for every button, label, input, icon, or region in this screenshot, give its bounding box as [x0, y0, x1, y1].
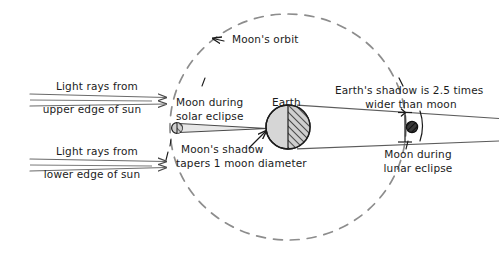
earth-label: Earth [272, 96, 301, 110]
light-ray-upper-1 [30, 94, 166, 98]
light-rays-upper-label-line2: upper edge of sun [27, 103, 157, 117]
eclipse-diagram-canvas: Moon's orbit Light rays from upper edge … [0, 0, 499, 262]
light-rays-lower-label-line1: Light rays from [32, 145, 162, 159]
light-ray-lower-1 [30, 159, 166, 162]
earth-shadow-label-line2: wider than moon [335, 98, 487, 112]
moon-shadow-cone [179, 124, 268, 133]
moon-solar-eclipse-body [172, 123, 183, 134]
light-rays-upper-label-line1: Light rays from [32, 80, 162, 94]
moon-lunar-eclipse-label-line1: Moon during [370, 148, 466, 162]
moon-lunar-eclipse-label-line2: lunar eclipse [370, 162, 466, 176]
moon-shadow-label-line1: Moon's shadow [181, 143, 263, 157]
moon-solar-eclipse-label-line2: solar eclipse [176, 110, 244, 124]
moon-shadow-label-line2: tapers 1 moon diameter [176, 157, 307, 171]
moon-solar-eclipse-label-line1: Moon during [176, 96, 243, 110]
earth-body [266, 105, 310, 149]
earth-shadow-cone [288, 105, 499, 149]
earth-shadow-label-line1: Earth's shadow is 2.5 times [335, 84, 483, 98]
light-rays-lower-label-line2: lower edge of sun [27, 168, 157, 182]
orbit-pointer-arrow [213, 39, 224, 42]
orbit-label: Moon's orbit [232, 33, 299, 47]
moon-lunar-eclipse-body [406, 121, 417, 132]
